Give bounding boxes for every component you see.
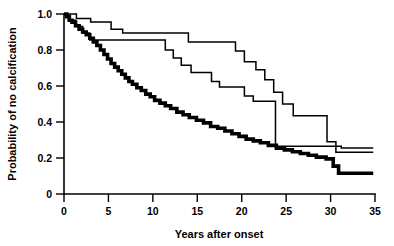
x-tick-label-3: 15 — [191, 205, 203, 217]
survival-chart-svg: 00.20.40.60.81.0 05101520253035 Years af… — [0, 0, 394, 246]
x-tick-label-0: 0 — [61, 205, 67, 217]
chart-figure: 00.20.40.60.81.0 05101520253035 Years af… — [0, 0, 394, 246]
x-tick-label-2: 10 — [147, 205, 159, 217]
x-tick-label-4: 20 — [236, 205, 248, 217]
y-tick-label-4: 0.8 — [37, 44, 52, 56]
x-tick-label-6: 30 — [325, 205, 337, 217]
y-axis-title: Probability of no calcification — [6, 27, 18, 181]
y-tick-label-1: 0.2 — [37, 152, 52, 164]
x-axis-title: Years after onset — [175, 228, 264, 240]
y-tick-label-0: 0 — [46, 188, 52, 200]
y-tick-label-5: 1.0 — [37, 8, 52, 20]
x-tick-label-1: 5 — [106, 205, 112, 217]
y-tick-label-2: 0.4 — [37, 116, 52, 128]
x-tick-label-7: 35 — [369, 205, 381, 217]
y-tick-label-3: 0.6 — [37, 80, 52, 92]
x-tick-label-5: 25 — [280, 205, 292, 217]
